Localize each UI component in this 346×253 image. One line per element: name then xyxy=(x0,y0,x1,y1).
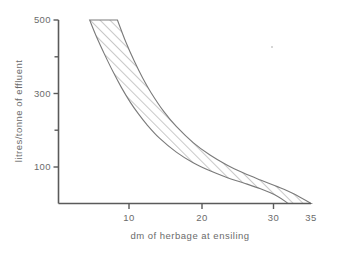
x-axis: 10 20 30 35 xyxy=(59,204,317,224)
x-tick-label-35: 35 xyxy=(305,212,316,223)
x-tick-label-30: 30 xyxy=(268,212,279,223)
chart-canvas: 500 300 100 10 20 30 35 dm of herbage at… xyxy=(0,0,346,253)
y-tick-label-100: 100 xyxy=(34,161,51,172)
effluent-band xyxy=(0,0,346,253)
chart-figure: 500 300 100 10 20 30 35 dm of herbage at… xyxy=(0,0,346,253)
y-axis-title: litres/tonne of effluent xyxy=(13,60,24,163)
x-tick-label-10: 10 xyxy=(123,212,134,223)
y-tick-label-300: 300 xyxy=(34,88,51,99)
y-axis: 500 300 100 xyxy=(34,14,59,204)
band-hatch-fill xyxy=(0,0,346,253)
scan-speck xyxy=(271,46,273,48)
y-tick-label-500: 500 xyxy=(34,14,51,25)
x-axis-title: dm of herbage at ensiling xyxy=(130,230,249,241)
x-tick-label-20: 20 xyxy=(196,212,207,223)
